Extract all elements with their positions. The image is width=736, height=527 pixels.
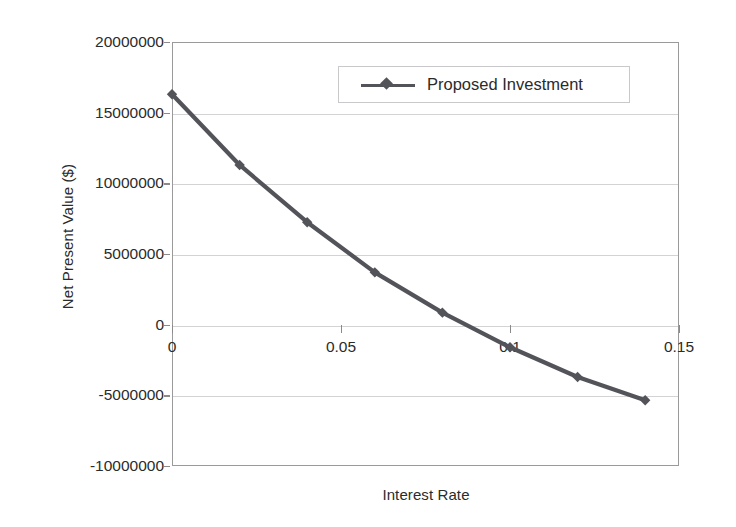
x-axis-tick-mark [679,325,680,333]
y-axis-tick-label: 0 [14,317,164,333]
y-axis-tick-label: 15000000 [14,105,164,121]
chart-container: 20000000150000001000000050000000-5000000… [0,0,736,527]
legend-marker-icon [361,78,415,92]
y-axis-tick-mark [164,183,170,184]
legend-diamond-icon [380,77,393,90]
gridline-horizontal [173,184,678,185]
x-axis-title: Interest Rate [172,486,680,503]
y-axis-tick-mark [164,466,170,467]
x-axis-tick-label: 0.1 [470,339,550,355]
y-axis-tick-mark [164,113,170,114]
y-axis-tick-label: 10000000 [14,175,164,191]
x-axis-tick-mark [172,325,173,333]
gridline-horizontal [173,396,678,397]
gridline-horizontal [173,255,678,256]
y-axis-tick-label: -10000000 [14,458,164,474]
y-axis-tick-mark [164,254,170,255]
y-axis-title: Net Present Value ($) [59,107,76,367]
gridline-horizontal [173,114,678,115]
y-axis-tick-mark [164,42,170,43]
plot-area [172,42,679,466]
y-axis-tick-label: 20000000 [14,34,164,50]
x-axis-tick-label: 0 [132,339,212,355]
x-axis-tick-mark [510,325,511,333]
y-axis-tick-label: 5000000 [14,246,164,262]
y-axis-tick-mark [164,395,170,396]
y-axis-tick-mark [164,325,170,326]
gridline-horizontal [173,326,678,327]
y-axis-tick-label: -5000000 [14,387,164,403]
x-axis-tick-label: 0.05 [301,339,381,355]
x-axis-tick-mark [341,325,342,333]
x-axis-tick-label: 0.15 [639,339,719,355]
legend-label-proposed-investment: Proposed Investment [427,75,583,94]
legend[interactable]: Proposed Investment [338,66,630,103]
